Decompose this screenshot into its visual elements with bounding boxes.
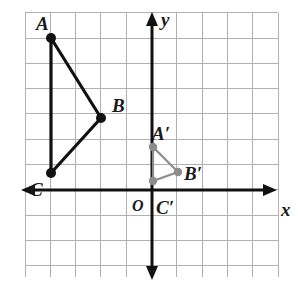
x-axis-right-arrow-icon [263, 184, 277, 196]
vertex-point-a-prime [149, 143, 157, 151]
vertex-label-c: C [30, 180, 43, 199]
vertex-label-b-prime: B′ [184, 164, 202, 183]
y-axis-down-arrow-icon [146, 266, 158, 280]
vertex-point-c-prime [149, 177, 157, 185]
y-axis-label: y [161, 10, 169, 29]
vertex-point-c [46, 168, 56, 178]
vertex-point-b-prime [174, 168, 182, 176]
vertex-point-a [46, 33, 56, 43]
x-axis-label: x [281, 200, 291, 219]
vertex-label-a-prime: A′ [152, 124, 170, 143]
origin-label: O [132, 198, 144, 214]
vertex-label-c-prime: C′ [156, 198, 174, 217]
vertex-label-b: B [112, 96, 125, 115]
coordinate-plane-figure: ABCA′B′C′ O x y [0, 0, 298, 293]
y-axis-up-arrow-icon [146, 12, 158, 26]
vertex-point-b [96, 113, 106, 123]
vertex-label-a: A [36, 14, 49, 33]
coordinate-plane-svg [0, 0, 298, 293]
